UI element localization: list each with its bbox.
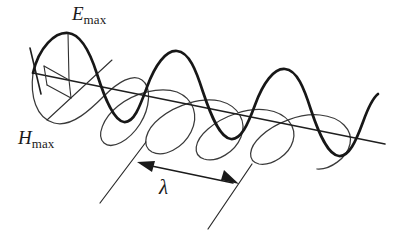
wavelength-label: λ bbox=[159, 177, 168, 198]
wavelength-arrow-line bbox=[142, 164, 233, 183]
em-wave-drawing bbox=[0, 0, 410, 238]
amplitude-construction-lines bbox=[44, 33, 112, 120]
arrow-head-right-icon bbox=[221, 170, 239, 184]
e-field-wave bbox=[33, 33, 378, 156]
wavelength-tick-left bbox=[100, 142, 146, 203]
wavelength-tick-right bbox=[208, 164, 252, 229]
h-max-symbol: H bbox=[18, 127, 32, 148]
e-max-symbol: E bbox=[72, 3, 84, 24]
h-max-label: Hmax bbox=[18, 128, 54, 150]
arrow-head-left-icon bbox=[137, 161, 155, 172]
e-max-label: Emax bbox=[72, 4, 106, 26]
wavelength-indicator bbox=[100, 142, 252, 229]
e-max-subscript: max bbox=[84, 12, 107, 27]
em-wave-figure: Emax Hmax λ bbox=[0, 0, 410, 238]
h-max-subscript: max bbox=[32, 136, 55, 151]
